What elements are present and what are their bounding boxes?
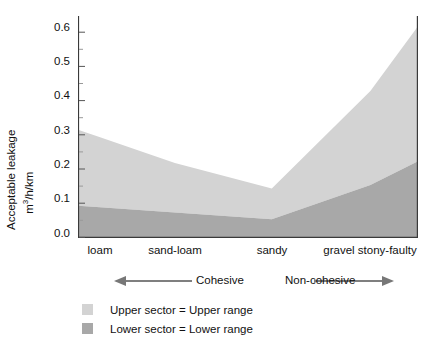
y-axis-title-line1: Acceptable leakage (5, 130, 17, 230)
y-tick-label-0.0: 0.0 (36, 228, 70, 240)
direction-arrows (100, 270, 410, 292)
y-tick-label-0.5: 0.5 (36, 56, 70, 68)
x-tick-label-gravel-stony-faulty: gravel stony-faulty (310, 244, 430, 256)
legend-item-upper-range: Upper sector = Upper range (82, 300, 253, 319)
y-axis-unit-prefix: m (23, 204, 35, 214)
cohesive-arrow-icon (114, 276, 192, 286)
y-tick-label-0.6: 0.6 (36, 22, 70, 34)
chart-figure: Acceptable leakage m3/h/km 0.6 0.5 0.4 0… (0, 0, 436, 350)
x-tick-label-sand-loam: sand-loam (135, 244, 215, 256)
legend-swatch-upper-range (82, 304, 93, 315)
x-tick-label-sandy: sandy (232, 244, 312, 256)
y-axis-title: Acceptable leakage m3/h/km (4, 40, 38, 240)
legend-swatch-lower-range (82, 323, 93, 334)
y-axis-unit-superscript: 3 (21, 200, 30, 204)
y-tick-label-0.4: 0.4 (36, 90, 70, 102)
y-axis-unit-suffix: /h/km (23, 172, 35, 200)
plot-area (78, 16, 418, 238)
legend-label-upper-range: Upper sector = Upper range (110, 304, 253, 316)
y-tick-label-0.2: 0.2 (36, 159, 70, 171)
area-chart-svg (78, 16, 418, 238)
legend-label-lower-range: Lower sector = Lower range (110, 323, 253, 335)
legend-item-lower-range: Lower sector = Lower range (82, 319, 253, 338)
y-axis-title-line2: m3/h/km (21, 172, 35, 214)
y-tick-label-0.3: 0.3 (36, 125, 70, 137)
y-tick-label-0.1: 0.1 (36, 193, 70, 205)
chart-legend: Upper sector = Upper range Lower sector … (82, 300, 253, 338)
non-cohesive-label: Non-cohesive (285, 274, 355, 286)
x-tick-label-loam: loam (60, 244, 140, 256)
cohesive-label: Cohesive (196, 274, 244, 286)
